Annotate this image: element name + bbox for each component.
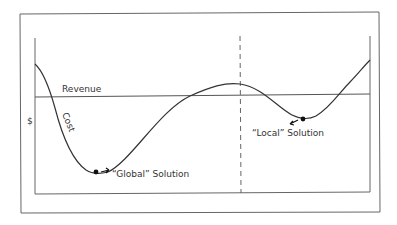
cost-label: Cost [60,111,77,134]
revenue-line [35,94,370,97]
global-solution-label: “Global” Solution [112,169,189,179]
local-minimum-dot [301,117,306,122]
x-axis [35,192,370,194]
optimization-diagram: $ Revenue Cost “Global” Solution “Local”… [0,0,397,225]
revenue-label: Revenue [62,84,102,94]
outer-frame [20,12,380,213]
dashed-divider [240,36,241,193]
cost-curve [35,60,370,173]
local-solution-label: “Local” Solution [252,128,324,138]
local-arrow-icon [290,120,298,125]
global-minimum-dot [94,170,99,175]
y-axis-label: $ [27,116,33,126]
